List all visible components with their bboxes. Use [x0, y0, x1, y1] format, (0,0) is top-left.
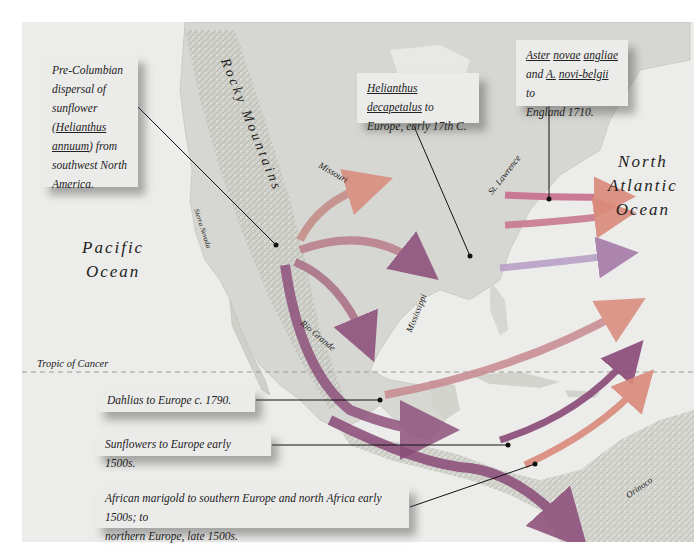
callout-text: Europe, early 17th C. [367, 117, 469, 136]
callout-text: and [526, 68, 546, 80]
callout-marigold: African marigold to southern Europe and … [95, 486, 409, 528]
pacific-ocean-label: Pacific Ocean [82, 236, 144, 284]
callout-text: dispersal of [52, 80, 128, 99]
species-name: A. [546, 68, 556, 80]
callout-text: and A. novi-belgii to [526, 65, 618, 103]
callout-text: to [526, 87, 535, 99]
arrow-aster-1 [505, 195, 615, 197]
callout-text: Helianthus decapetalus to [367, 79, 469, 117]
callout-text: (Helianthus [52, 118, 128, 137]
species-name: annuum [52, 140, 89, 152]
callout-text: southwest North [52, 156, 128, 175]
pacific-label-line2: Ocean [82, 260, 144, 284]
callout-text: annuum) from [52, 137, 128, 156]
species-name: novi-belgii [559, 68, 609, 80]
arrow-decapetalus [500, 255, 618, 268]
atlantic-ocean-label: North Atlantic Ocean [608, 150, 678, 222]
callout-text: ) from [89, 140, 117, 152]
pacific-label-line1: Pacific [82, 236, 144, 260]
tropic-of-cancer-label: Tropic of Cancer [37, 358, 108, 369]
callout-decapetalus: Helianthus decapetalus to Europe, early … [357, 73, 479, 123]
callout-text: Pre-Columbian [52, 61, 128, 80]
species-name: novae [553, 49, 580, 61]
callout-text: England 1710. [526, 103, 618, 122]
callout-text: to [422, 101, 434, 113]
atlantic-label-line1: North [608, 150, 678, 174]
callout-text: Aster novae angliae [526, 46, 618, 65]
callout-aster: Aster novae angliae and A. novi-belgii t… [516, 40, 628, 106]
callout-text: Dahlias to Europe c. 1790. [107, 391, 245, 410]
atlantic-label-line3: Ocean [608, 198, 678, 222]
callout-text: sunflower [52, 99, 128, 118]
species-name: Helianthus [367, 82, 417, 94]
callout-sunflowers: Sunflowers to Europe early 1500s. [95, 432, 271, 456]
callout-text: northern Europe, late 1500s. [105, 527, 399, 546]
species-name: decapetalus [367, 101, 422, 113]
species-name: Helianthus [56, 121, 106, 133]
callout-pre-columbian: Pre-Columbian dispersal of sunflower (He… [42, 55, 138, 187]
arrow-sunflowers [500, 356, 630, 440]
species-name: Aster [526, 49, 550, 61]
callout-dahlias: Dahlias to Europe c. 1790. [97, 388, 255, 412]
callout-text: Sunflowers to Europe early 1500s. [105, 435, 261, 473]
species-name: angliae [584, 49, 619, 61]
callout-text: African marigold to southern Europe and … [105, 489, 399, 527]
callout-text: America. [52, 175, 128, 194]
atlantic-label-line2: Atlantic [608, 174, 678, 198]
